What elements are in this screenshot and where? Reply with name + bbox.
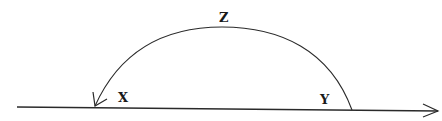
diagram-canvas: Z X Y — [0, 0, 442, 121]
arc — [95, 27, 352, 110]
label-y: Y — [319, 92, 330, 107]
label-z: Z — [219, 10, 229, 25]
arc-arrow — [93, 27, 352, 110]
baseline-arrow — [17, 104, 438, 117]
baseline — [17, 107, 438, 111]
label-x: X — [118, 90, 129, 105]
arc-arrowhead-icon — [93, 92, 107, 106]
